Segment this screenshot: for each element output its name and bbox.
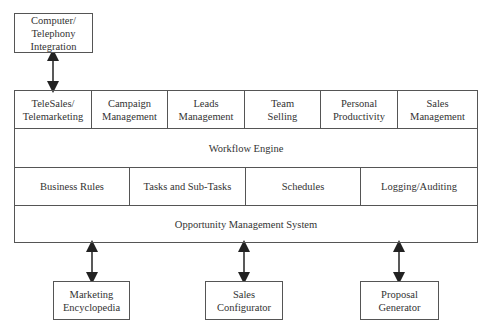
personal-productivity-label: Personal Productivity <box>333 97 385 123</box>
workflow-engine-label: Workflow Engine <box>209 142 284 155</box>
services-row: Business Rules Tasks and Sub-Tasks Sched… <box>15 168 477 206</box>
team-selling-label: Team Selling <box>268 97 298 123</box>
sales-management-cell: Sales Management <box>398 91 477 128</box>
tasks-cell: Tasks and Sub-Tasks <box>130 168 246 205</box>
leads-cell: Leads Management <box>168 91 245 128</box>
marketing-encyclopedia-box: Marketing Encyclopedia <box>53 281 130 320</box>
workflow-row: Workflow Engine <box>15 129 477 168</box>
schedules-label: Schedules <box>282 180 325 193</box>
workflow-engine-cell: Workflow Engine <box>15 129 477 167</box>
personal-productivity-cell: Personal Productivity <box>321 91 398 128</box>
proposal-generator-box: Proposal Generator <box>360 281 439 320</box>
campaign-cell: Campaign Management <box>92 91 168 128</box>
schedules-cell: Schedules <box>246 168 361 205</box>
applications-row: TeleSales/ Telemarketing Campaign Manage… <box>15 91 477 129</box>
business-rules-label: Business Rules <box>40 180 104 193</box>
opportunity-management-label: Opportunity Management System <box>175 218 317 231</box>
sales-management-label: Sales Management <box>410 97 465 123</box>
sales-configurator-label: Sales Configurator <box>217 288 271 314</box>
cti-box: Computer/ Telephony Integration <box>14 13 93 53</box>
proposal-generator-label: Proposal Generator <box>379 288 421 314</box>
logging-label: Logging/Auditing <box>381 180 457 193</box>
telesales-label: TeleSales/ Telemarketing <box>23 97 84 123</box>
logging-cell: Logging/Auditing <box>361 168 477 205</box>
tasks-label: Tasks and Sub-Tasks <box>144 180 232 193</box>
campaign-label: Campaign Management <box>102 97 157 123</box>
foundation-row: Opportunity Management System <box>15 206 477 242</box>
cti-label: Computer/ Telephony Integration <box>30 14 76 53</box>
leads-label: Leads Management <box>179 97 234 123</box>
team-selling-cell: Team Selling <box>245 91 321 128</box>
business-rules-cell: Business Rules <box>15 168 130 205</box>
sales-system-stack: TeleSales/ Telemarketing Campaign Manage… <box>14 90 478 243</box>
sales-configurator-box: Sales Configurator <box>205 281 283 320</box>
opportunity-management-cell: Opportunity Management System <box>15 206 477 242</box>
marketing-encyclopedia-label: Marketing Encyclopedia <box>63 288 120 314</box>
telesales-cell: TeleSales/ Telemarketing <box>15 91 92 128</box>
